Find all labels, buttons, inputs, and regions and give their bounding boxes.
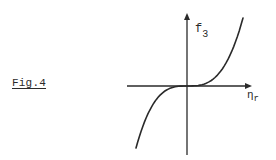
x-axis-label-sub: r bbox=[254, 94, 259, 104]
y-axis bbox=[184, 13, 190, 155]
cubic-plot: f3 ηr bbox=[0, 0, 276, 160]
y-axis-label-main: f bbox=[195, 22, 202, 36]
x-axis-label: ηr bbox=[247, 89, 259, 104]
y-axis-label-sub: 3 bbox=[202, 29, 208, 40]
x-axis-label-main: η bbox=[247, 89, 254, 101]
y-axis-label: f3 bbox=[195, 22, 208, 40]
y-axis-arrow-icon bbox=[184, 13, 190, 20]
curve-f3 bbox=[136, 18, 243, 148]
